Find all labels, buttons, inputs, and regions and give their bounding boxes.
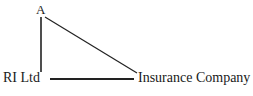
diagram-canvas: A RI Ltd Insurance Company [0,0,253,96]
node-label-apex: A [36,3,45,16]
node-label-insurance-company: Insurance Company [138,71,250,85]
edge-apex-to-insurance-company [45,17,137,73]
node-label-ri-ltd: RI Ltd [3,71,40,85]
